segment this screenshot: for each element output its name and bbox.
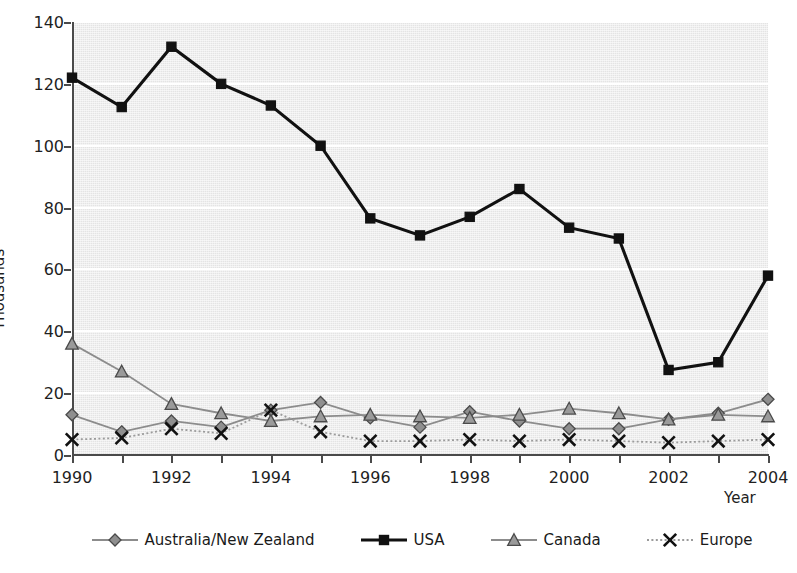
x-axis-tick-mark [718, 456, 720, 463]
x-axis-tick-mark [519, 456, 521, 463]
x-axis-tick-mark [669, 456, 671, 463]
legend-marker-diamond-icon [92, 531, 138, 549]
x-axis-tick-mark [470, 456, 472, 463]
gridline [72, 83, 768, 85]
chart-figure: 020406080100120140 199019921994199619982… [0, 0, 797, 573]
gridline [72, 145, 768, 147]
plot-area [72, 22, 768, 455]
gridline [72, 21, 768, 23]
legend-item-usa[interactable]: USA [361, 531, 445, 549]
legend-marker-triangle-icon [491, 531, 537, 549]
y-axis-tick-mark [64, 393, 71, 395]
x-axis-tick-label: 2000 [549, 468, 590, 487]
y-axis-line [72, 22, 74, 456]
y-axis-tick-mark [64, 269, 71, 271]
y-axis-tick-mark [64, 331, 71, 333]
x-axis-tick-mark [420, 456, 422, 463]
y-axis-tick-label: 0 [8, 446, 64, 465]
legend-label: USA [414, 531, 445, 549]
x-axis-tick-mark [569, 456, 571, 463]
legend-marker-square-icon [361, 531, 407, 549]
x-axis-tick-mark [619, 456, 621, 463]
legend-label: Europe [700, 531, 753, 549]
y-axis-tick-labels: 020406080100120140 [0, 22, 64, 455]
y-axis-tick-mark [64, 208, 71, 210]
y-axis-tick-mark [64, 22, 71, 24]
y-axis-tick-label: 140 [8, 13, 64, 32]
x-axis-title: Year [724, 489, 756, 507]
gridline [72, 330, 768, 332]
x-axis-tick-label: 1994 [250, 468, 291, 487]
y-axis-tick-mark [64, 84, 71, 86]
x-axis-tick-mark [221, 456, 223, 463]
x-axis-tick-mark [768, 456, 770, 463]
x-axis-tick-mark [171, 456, 173, 463]
x-axis-tick-label: 1998 [449, 468, 490, 487]
legend-item-australia-new-zealand[interactable]: Australia/New Zealand [92, 531, 315, 549]
y-axis-title: Thousands [0, 249, 8, 330]
x-axis-tick-label: 1992 [151, 468, 192, 487]
y-axis-tick-mark [64, 146, 71, 148]
y-axis-tick-label: 60 [8, 260, 64, 279]
legend-label: Canada [544, 531, 601, 549]
x-axis-tick-mark [72, 456, 74, 463]
x-axis-tick-mark [271, 456, 273, 463]
x-axis-tick-label: 2004 [748, 468, 789, 487]
legend-marker-x-icon [647, 531, 693, 549]
legend-item-europe[interactable]: Europe [647, 531, 753, 549]
chart-legend: Australia/New ZealandUSACanadaEurope [72, 520, 772, 560]
y-axis-tick-label: 100 [8, 136, 64, 155]
gridline [72, 392, 768, 394]
y-axis-tick-label: 120 [8, 74, 64, 93]
legend-label: Australia/New Zealand [145, 531, 315, 549]
x-axis-tick-labels: 19901992199419961998200020022004 [72, 456, 769, 496]
x-axis-tick-mark [321, 456, 323, 463]
legend-item-canada[interactable]: Canada [491, 531, 601, 549]
y-axis-tick-label: 40 [8, 322, 64, 341]
y-axis-tick-label: 80 [8, 198, 64, 217]
x-axis-tick-label: 2002 [648, 468, 689, 487]
x-axis-tick-label: 1990 [52, 468, 93, 487]
x-axis-tick-mark [122, 456, 124, 463]
y-axis-tick-mark [64, 455, 71, 457]
x-axis-tick-mark [370, 456, 372, 463]
plot-background-texture [72, 22, 768, 455]
gridline [72, 268, 768, 270]
gridline [72, 207, 768, 209]
x-axis-tick-label: 1996 [350, 468, 391, 487]
y-axis-tick-label: 20 [8, 384, 64, 403]
